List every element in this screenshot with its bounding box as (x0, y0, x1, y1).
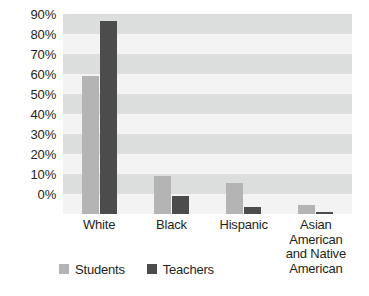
y-tick-label: 60% (31, 68, 56, 81)
bar-chart: 90%80%70%60%50%40%30%20%10%0% WhiteBlack… (0, 0, 369, 296)
bar-teachers-0[interactable] (100, 21, 117, 214)
chart-legend: StudentsTeachers (59, 261, 236, 277)
bar-group (63, 14, 135, 214)
bar-students-2[interactable] (226, 183, 243, 214)
bar-teachers-3[interactable] (316, 212, 333, 214)
y-tick-label: 0% (38, 188, 56, 201)
x-tick-label: Asian American and Native American (280, 218, 352, 276)
y-tick-label: 90% (31, 8, 56, 21)
y-tick-label: 20% (31, 148, 56, 161)
bar-group (280, 14, 352, 214)
plot-area (63, 14, 352, 214)
bar-group (135, 14, 207, 214)
y-tick-label: 50% (31, 88, 56, 101)
bar-teachers-2[interactable] (244, 207, 261, 214)
x-tick-label: Hispanic (208, 218, 280, 233)
legend-label: Teachers (163, 263, 214, 276)
legend-label: Students (75, 263, 125, 276)
y-tick-label: 40% (31, 108, 56, 121)
bars-layer (63, 14, 352, 214)
legend-item-teachers[interactable]: Teachers (147, 263, 214, 276)
x-tick-label: Black (135, 218, 207, 233)
y-tick-label: 10% (31, 168, 56, 181)
bar-students-0[interactable] (82, 76, 99, 214)
legend-swatch-icon (59, 264, 69, 274)
bar-group (208, 14, 280, 214)
bar-students-3[interactable] (298, 205, 315, 214)
y-tick-label: 70% (31, 48, 56, 61)
legend-swatch-icon (147, 264, 157, 274)
bar-students-1[interactable] (154, 176, 171, 214)
legend-item-students[interactable]: Students (59, 263, 125, 276)
bar-teachers-1[interactable] (172, 196, 189, 214)
y-tick-label: 30% (31, 128, 56, 141)
x-tick-label: White (63, 218, 135, 233)
y-axis: 90%80%70%60%50%40%30%20%10%0% (0, 14, 62, 214)
y-tick-label: 80% (31, 28, 56, 41)
